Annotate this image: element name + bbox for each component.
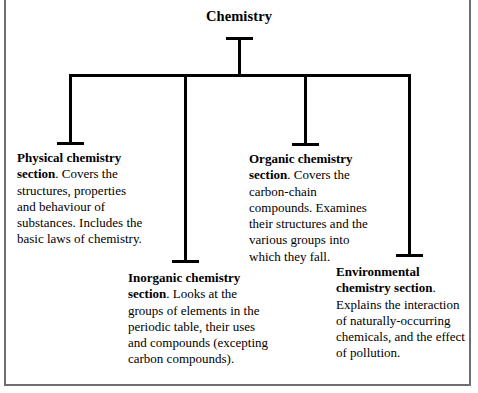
node-organic-chemistry: Organic chemistry section. Covers the ca… (249, 151, 375, 265)
connector-drop-environmental (408, 74, 411, 256)
node-environmental-chemistry-lead: Environmental chemistry section (336, 264, 432, 295)
connector-drop-inorganic (184, 74, 187, 262)
connector-drop-physical (69, 74, 72, 144)
node-physical-chemistry: Physical chemistry section. Covers the s… (17, 150, 145, 248)
connector-foot-environmental (396, 254, 423, 257)
frame-border-left (4, 0, 6, 386)
node-environmental-chemistry-period: . (432, 280, 435, 295)
root-node-title: Chemistry (0, 8, 478, 25)
diagram-canvas: Chemistry Physical chemistry section. Co… (0, 0, 478, 393)
connector-drop-organic (304, 74, 307, 145)
frame-border-right (469, 0, 471, 386)
root-stem-line (238, 37, 241, 76)
node-environmental-chemistry: Environmental chemistry section. Explain… (336, 264, 468, 362)
connector-bus-horizontal (69, 74, 411, 77)
frame-border-bottom (4, 384, 471, 386)
connector-foot-inorganic (172, 260, 199, 263)
connector-foot-physical (57, 142, 84, 145)
node-inorganic-chemistry: Inorganic chemistry section. Looks at th… (128, 270, 270, 368)
node-environmental-chemistry-body: Explains the interaction of naturally-oc… (336, 297, 465, 361)
connector-foot-organic (292, 143, 319, 146)
